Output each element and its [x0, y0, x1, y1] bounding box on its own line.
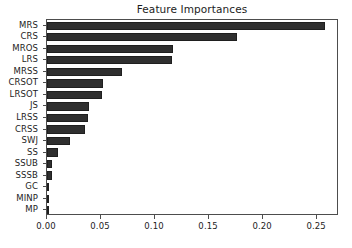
bar-sssb: [47, 171, 52, 179]
bar-crss: [47, 125, 85, 133]
y-tick-label-crss: CRSS: [15, 124, 38, 134]
bar-row: [47, 183, 337, 191]
plot-area: [46, 19, 338, 215]
bar-js: [47, 102, 89, 110]
y-tick-label-crs: CRS: [20, 31, 38, 41]
bar-crs: [47, 33, 237, 41]
bar-row: [47, 148, 337, 156]
y-tick-label-mrs: MRS: [19, 20, 38, 30]
x-tick-mark: [208, 215, 209, 219]
bar-swj: [47, 137, 70, 145]
x-axis: 0.000.050.100.150.200.25: [0, 215, 352, 248]
y-tick-label-swj: SWJ: [21, 135, 38, 145]
y-tick-label-mros: MROS: [12, 43, 38, 53]
bar-row: [47, 79, 337, 87]
bar-ss: [47, 148, 58, 156]
y-axis: MRSCRSMROSLRSMRSSCRSOTLRSOTJSLRSSCRSSSWJ…: [0, 19, 46, 215]
bar-lrs: [47, 56, 172, 64]
bar-row: [47, 33, 337, 41]
bar-row: [47, 114, 337, 122]
bar-crsot: [47, 79, 103, 87]
y-tick-label-gc: GC: [25, 181, 38, 191]
y-tick-label-lrsot: LRSOT: [10, 89, 38, 99]
y-tick-label-mrss: MRSS: [14, 66, 38, 76]
bar-row: [47, 195, 337, 203]
bar-lrsot: [47, 91, 102, 99]
x-tick-mark: [262, 215, 263, 219]
bar-row: [47, 125, 337, 133]
x-tick-mark: [46, 215, 47, 219]
feature-importances-chart: Feature Importances MRSCRSMROSLRSMRSSCRS…: [0, 0, 352, 248]
x-tick-label-0: 0.00: [36, 221, 55, 231]
x-tick-label-4: 0.20: [252, 221, 271, 231]
bar-gc: [47, 183, 49, 191]
bar-row: [47, 91, 337, 99]
y-tick-label-crsot: CRSOT: [8, 77, 38, 87]
y-tick-label-ssub: SSUB: [15, 158, 38, 168]
bar-row: [47, 56, 337, 64]
y-tick-label-minp: MINP: [16, 193, 38, 203]
bar-row: [47, 22, 337, 30]
y-tick-label-js: JS: [30, 100, 38, 110]
bar-row: [47, 102, 337, 110]
y-tick-label-lrss: LRSS: [16, 112, 38, 122]
x-tick-label-5: 0.25: [306, 221, 325, 231]
x-tick-mark: [154, 215, 155, 219]
bar-row: [47, 171, 337, 179]
chart-title: Feature Importances: [46, 3, 338, 15]
bar-row: [47, 45, 337, 53]
bar-mrs: [47, 22, 325, 30]
y-tick-label-mp: MP: [25, 204, 38, 214]
y-tick-label-ss: SS: [27, 147, 38, 157]
bars-layer: [47, 20, 337, 214]
bar-lrss: [47, 114, 88, 122]
x-tick-mark: [100, 215, 101, 219]
x-tick-mark: [316, 215, 317, 219]
x-tick-label-3: 0.15: [198, 221, 217, 231]
bar-mros: [47, 45, 173, 53]
bar-row: [47, 160, 337, 168]
bar-minp: [47, 195, 49, 203]
x-tick-label-2: 0.10: [144, 221, 163, 231]
bar-row: [47, 68, 337, 76]
bar-row: [47, 206, 337, 214]
y-tick-label-sssb: SSSB: [16, 170, 38, 180]
bar-ssub: [47, 160, 52, 168]
bar-mp: [47, 206, 49, 214]
bar-row: [47, 137, 337, 145]
y-tick-label-lrs: LRS: [22, 54, 38, 64]
x-tick-label-1: 0.05: [90, 221, 109, 231]
bar-mrss: [47, 68, 122, 76]
